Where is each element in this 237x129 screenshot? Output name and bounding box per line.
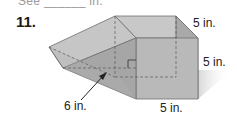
label-height-arrow: 6 in. [64,99,87,113]
shadow [198,70,232,99]
label-top-right: 5 in. [193,16,216,30]
label-right: 5 in. [203,55,226,69]
label-bottom: 5 in. [160,101,183,115]
cube-front-face [136,38,198,99]
